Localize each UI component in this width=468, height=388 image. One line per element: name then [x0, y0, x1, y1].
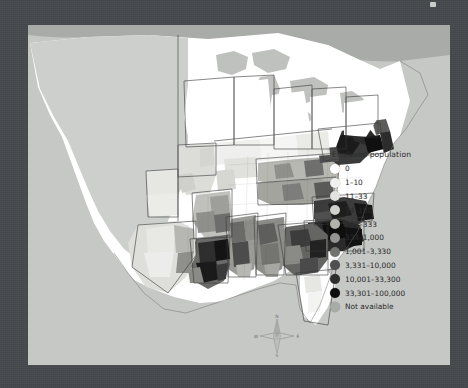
legend-swatch	[330, 191, 340, 201]
compass-north-label: N	[275, 314, 278, 319]
legend-item-not-available[interactable]: Not available	[330, 300, 448, 314]
map-canvas: Enslaved population 0 1–10 11–33 34–100	[28, 25, 450, 365]
legend-item[interactable]: 3,331–10,000	[330, 259, 448, 273]
legend-item[interactable]: 34–100	[330, 203, 448, 217]
legend-swatch	[330, 205, 340, 215]
compass-south-label: S	[276, 353, 279, 357]
legend-item[interactable]: 1–10	[330, 176, 448, 190]
legend-item[interactable]: 101–333	[330, 217, 448, 231]
compass-west-label: W	[254, 334, 259, 339]
legend-item-label: 10,001–33,300	[345, 275, 400, 284]
legend-item-label: Not available	[345, 302, 394, 311]
legend-swatch	[330, 302, 340, 312]
compass-east-label: E	[297, 334, 300, 339]
legend-item[interactable]: 33,301–100,000	[330, 286, 448, 300]
legend-item-label: 101–333	[345, 220, 377, 229]
legend-swatch	[330, 260, 340, 270]
legend-swatch	[330, 288, 340, 298]
legend-item-label: 34–100	[345, 206, 372, 215]
legend-item-label: 33,301–100,000	[345, 289, 405, 298]
map-legend: Enslaved population 0 1–10 11–33 34–100	[330, 150, 448, 314]
legend-item-label: 334–1,000	[345, 233, 384, 242]
legend-item[interactable]: 10,001–33,300	[330, 272, 448, 286]
legend-swatch	[330, 178, 340, 188]
legend-title: Enslaved population	[332, 150, 448, 159]
map-panel[interactable]: Enslaved population 0 1–10 11–33 34–100	[28, 25, 450, 365]
legend-item-label: 11–33	[345, 192, 368, 201]
legend-swatch	[330, 164, 340, 174]
legend-swatch	[330, 219, 340, 229]
legend-swatch	[330, 233, 340, 243]
corner-speck	[430, 2, 436, 7]
screenshot-stage: Enslaved population 0 1–10 11–33 34–100	[0, 0, 468, 388]
legend-item[interactable]: 1,001–3,330	[330, 245, 448, 259]
legend-item[interactable]: 11–33	[330, 190, 448, 204]
compass-rose: N S E W	[254, 313, 300, 357]
legend-item[interactable]: 334–1,000	[330, 231, 448, 245]
legend-item-label: 0	[345, 164, 350, 173]
legend-swatch	[330, 247, 340, 257]
legend-item-label: 3,331–10,000	[345, 261, 396, 270]
legend-item-label: 1–10	[345, 178, 363, 187]
legend-item[interactable]: 0	[330, 162, 448, 176]
legend-swatch	[330, 274, 340, 284]
legend-item-label: 1,001–3,330	[345, 247, 391, 256]
